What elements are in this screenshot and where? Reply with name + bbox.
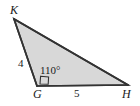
angle-measure-label-g: 110° [40, 65, 61, 76]
vertex-label-h: H [122, 88, 131, 100]
geometry-figure: K G H 4 5 110° [0, 0, 140, 106]
side-length-label-gh: 5 [74, 88, 80, 99]
triangle-diagram-svg [0, 0, 140, 106]
vertex-label-k: K [10, 4, 18, 16]
segment-gh [37, 85, 128, 86]
vertex-label-g: G [33, 88, 42, 100]
side-length-label-kg: 4 [18, 58, 24, 69]
